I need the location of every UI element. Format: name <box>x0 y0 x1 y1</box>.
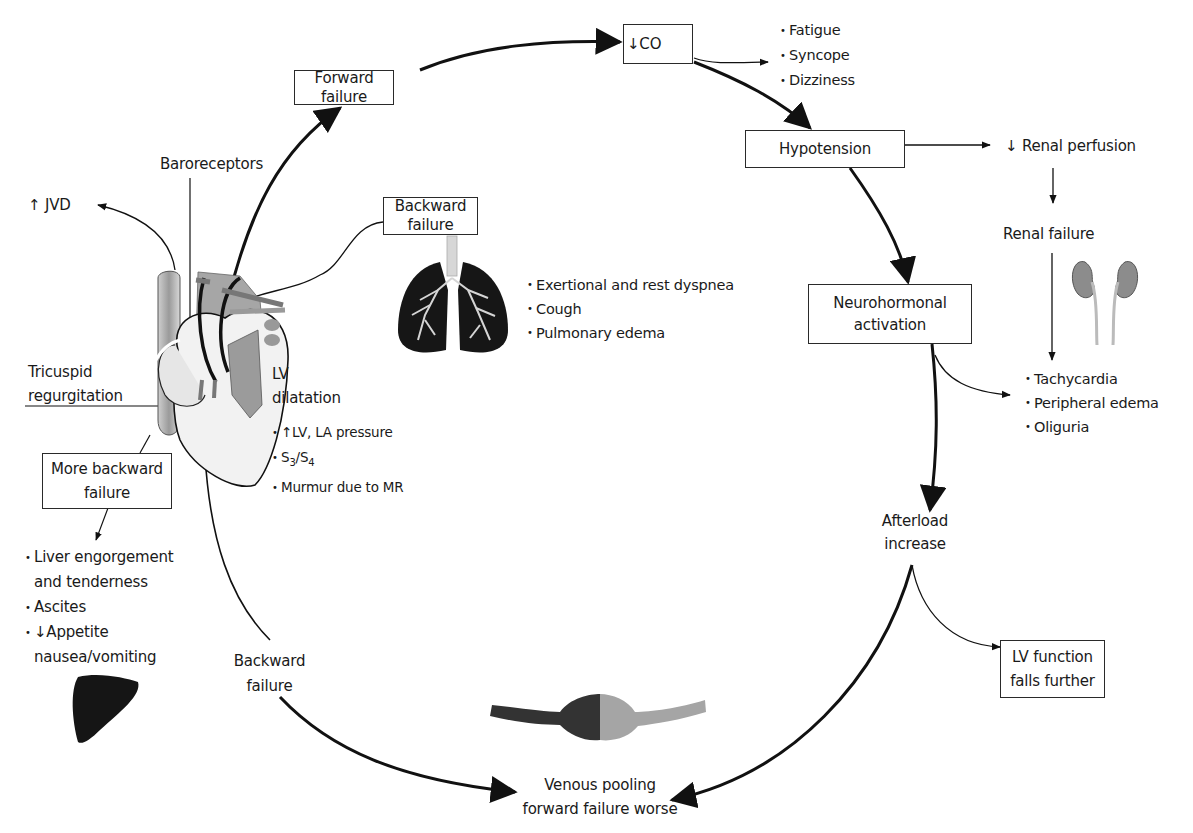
list-item: Dizziness <box>780 68 855 93</box>
hypotension-label: Hypotension <box>779 140 871 159</box>
list-item-s3-s4: S3/S4 <box>272 445 403 475</box>
venous-pooling-illustration <box>490 694 706 740</box>
lv-function-line1: LV function <box>1012 645 1093 669</box>
more-backward-line2: failure <box>84 481 130 505</box>
arrow-heart-to-jvd <box>98 205 175 270</box>
arrow-neurohormonal-to-afterload <box>930 344 936 510</box>
more-backward-failure-box: More backward failure <box>42 453 172 509</box>
list-item-continuation: and tenderness <box>25 570 173 595</box>
lv-line2: dilatation <box>272 389 341 408</box>
arrow-afterload-to-lv-function <box>912 565 1000 647</box>
tricuspid-line2: regurgitation <box>28 387 123 406</box>
list-item: Fatigue <box>780 18 855 43</box>
lv-function-box: LV function falls further <box>1000 640 1105 698</box>
hepatic-symptoms-list: Liver engorgement and tenderness Ascites… <box>25 545 173 670</box>
list-item: ↓Appetite <box>25 620 173 645</box>
jvd-label: ↑ JVD <box>28 196 71 215</box>
backward-bottom-line1: Backward <box>232 652 307 671</box>
list-item: Exertional and rest dyspnea <box>527 273 734 297</box>
tricuspid-line1: Tricuspid <box>28 363 92 382</box>
heart-failure-cycle-diagram: Forward failure ↓CO Hypotension Neurohor… <box>0 0 1193 833</box>
list-item: Tachycardia <box>1025 367 1159 391</box>
neurohormonal-line1: Neurohormonal <box>833 292 947 314</box>
liver-illustration <box>73 675 139 743</box>
forward-failure-box: Forward failure <box>294 70 394 105</box>
list-item: Murmur due to MR <box>272 475 403 500</box>
decreased-co-box: ↓CO <box>623 24 693 64</box>
baroreceptors-label: Baroreceptors <box>160 155 263 174</box>
lungs-illustration <box>398 236 508 353</box>
list-item: Peripheral edema <box>1025 391 1159 415</box>
forward-failure-label: Forward failure <box>295 69 393 107</box>
renal-failure-label: Renal failure <box>1003 225 1094 244</box>
arrow-hypotension-to-neurohormonal <box>850 168 908 282</box>
list-item: Ascites <box>25 595 173 620</box>
list-item: Liver engorgement <box>25 545 173 570</box>
arrow-forward-failure-to-co <box>420 42 620 70</box>
renal-perfusion-label: ↓ Renal perfusion <box>1005 137 1136 156</box>
arrow-afterload-to-venous <box>672 565 912 800</box>
list-item: ↑LV, LA pressure <box>272 420 403 445</box>
arrow-heart-to-forward-failure <box>228 108 340 300</box>
arrow-neurohormonal-to-effects <box>935 355 1010 395</box>
backward-failure-box: Backward failure <box>383 197 478 235</box>
decreased-co-label: ↓CO <box>627 35 661 54</box>
afterload-line2: increase <box>880 535 950 554</box>
co-symptoms-list: Fatigue Syncope Dizziness <box>780 18 855 93</box>
more-backward-line1: More backward <box>51 457 163 481</box>
list-item: Pulmonary edema <box>527 321 734 345</box>
backward-failure-top-label: Backward failure <box>384 197 477 235</box>
list-item-continuation: nausea/vomiting <box>25 645 173 670</box>
pulmonary-symptoms-list: Exertional and rest dyspnea Cough Pulmon… <box>527 273 734 345</box>
kidneys-illustration <box>1072 262 1137 345</box>
afterload-line1: Afterload <box>880 512 950 531</box>
list-item: Syncope <box>780 43 855 68</box>
line-heart-to-more-backward <box>140 435 150 453</box>
neurohormonal-effects-list: Tachycardia Peripheral edema Oliguria <box>1025 367 1159 439</box>
arrow-more-backward-to-liver <box>96 508 108 540</box>
arrow-co-to-symptoms <box>694 58 768 63</box>
lv-function-line2: falls further <box>1010 669 1095 693</box>
list-item: Oliguria <box>1025 415 1159 439</box>
arrow-backward-to-venous <box>280 697 515 792</box>
arrow-backward-box-to-heart <box>232 222 383 305</box>
hypotension-box: Hypotension <box>745 130 905 168</box>
neurohormonal-activation-box: Neurohormonal activation <box>808 284 972 344</box>
neurohormonal-line2: activation <box>854 314 926 336</box>
venous-pooling-line2: forward failure worse <box>500 800 700 819</box>
lv-signs-list: ↑LV, LA pressure S3/S4 Murmur due to MR <box>272 420 403 500</box>
list-item: Cough <box>527 297 734 321</box>
backward-bottom-line2: failure <box>232 677 307 696</box>
venous-pooling-line1: Venous pooling <box>500 776 700 795</box>
lv-line1: LV <box>272 365 289 384</box>
diagram-graphics <box>0 0 1193 833</box>
